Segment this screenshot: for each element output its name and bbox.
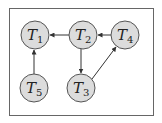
node-t5: T5: [20, 74, 48, 102]
node-t2: T2: [69, 21, 97, 49]
node-t4: T4: [111, 21, 139, 49]
task-dependency-diagram: T1 T2 T4 T5 T3: [0, 0, 162, 123]
node-t3: T3: [67, 74, 95, 102]
node-t1: T1: [21, 21, 49, 49]
